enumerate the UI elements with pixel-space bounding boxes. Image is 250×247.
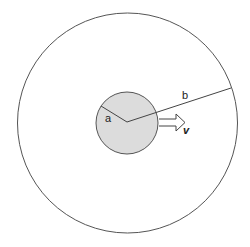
label-v: v xyxy=(183,124,190,136)
concentric-circles-diagram: a b v xyxy=(0,0,250,247)
label-b: b xyxy=(182,89,188,101)
label-a: a xyxy=(105,112,112,124)
